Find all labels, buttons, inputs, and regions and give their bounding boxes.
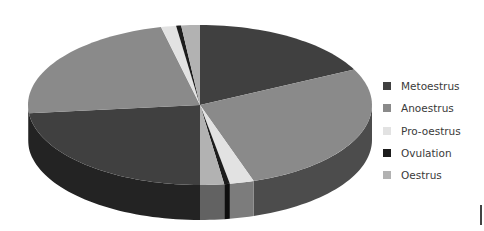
legend-item-anoestrus: Anoestrus — [383, 97, 461, 119]
legend-label: Oestrus — [401, 169, 442, 181]
chart-legend: Metoestrus Anoestrus Pro-oestrus Ovulati… — [383, 75, 461, 186]
legend-item-ovulation: Ovulation — [383, 142, 461, 164]
side-pro-oestrus — [230, 181, 254, 219]
legend-swatch-anoestrus — [383, 104, 391, 112]
legend-item-pro-oestrus: Pro-oestrus — [383, 120, 461, 142]
legend-label: Ovulation — [401, 147, 452, 159]
legend-swatch-ovulation — [383, 149, 391, 157]
pie-top-face — [28, 25, 372, 185]
edge-artifact — [480, 205, 482, 225]
side-oestrus — [200, 184, 224, 220]
legend-label: Anoestrus — [401, 102, 454, 114]
legend-label: Pro-oestrus — [401, 125, 461, 137]
legend-swatch-pro-oestrus — [383, 127, 391, 135]
legend-label: Metoestrus — [401, 80, 460, 92]
legend-item-oestrus: Oestrus — [383, 164, 461, 186]
legend-swatch-metoestrus — [383, 82, 391, 90]
legend-swatch-oestrus — [383, 171, 391, 179]
legend-item-metoestrus: Metoestrus — [383, 75, 461, 97]
side-ovulation — [224, 184, 230, 219]
